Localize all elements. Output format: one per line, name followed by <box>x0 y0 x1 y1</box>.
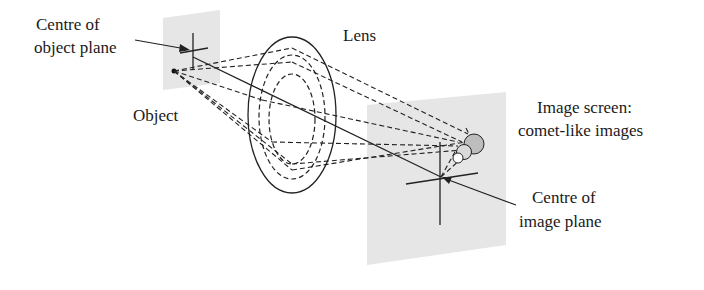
label-image-screen-line2: comet-like images <box>518 121 643 140</box>
lens-aberration-diagram: Centre of object plane Object Lens Image… <box>0 0 704 290</box>
label-centre-image-line2: image plane <box>519 212 602 231</box>
label-lens: Lens <box>343 26 376 45</box>
label-centre-image-line1: Centre of <box>532 188 596 207</box>
lens-zone-inner <box>269 74 315 164</box>
label-centre-object-line2: object plane <box>34 38 117 57</box>
comet-image-small <box>453 153 463 163</box>
label-centre-object-line1: Centre of <box>36 15 100 34</box>
object-plane <box>163 10 220 90</box>
image-plane <box>367 92 506 265</box>
label-object: Object <box>133 106 179 125</box>
label-image-screen-line1: Image screen: <box>537 98 632 117</box>
